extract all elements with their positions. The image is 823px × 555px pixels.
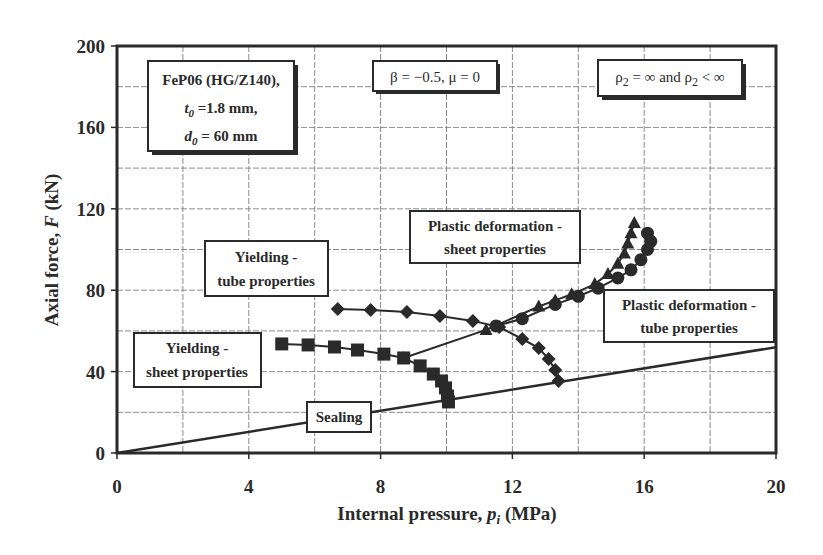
svg-text:Plastic deformation -: Plastic deformation -	[622, 297, 756, 313]
diamond-marker	[364, 303, 378, 317]
x-axis-title: Internal pressure, pi (MPa)	[337, 503, 556, 527]
diamond-marker	[548, 363, 562, 377]
circle-marker	[572, 290, 585, 303]
y-tick-label: 0	[96, 443, 106, 464]
triangle-marker	[628, 216, 641, 228]
circle-marker	[625, 263, 638, 276]
label-plastic-sheet: Plastic deformation - sheet properties	[410, 211, 580, 263]
circle-marker	[641, 227, 654, 240]
square-marker	[302, 338, 315, 351]
y-tick-label: 40	[86, 362, 105, 383]
material-info-box: FeP06 (HG/Z140), t0 =1.8 mm, d0 = 60 mm	[148, 61, 298, 155]
x-tick-label: 12	[503, 476, 522, 497]
svg-text:Plastic deformation -: Plastic deformation -	[428, 218, 562, 234]
square-marker	[351, 344, 364, 357]
diamond-marker	[400, 305, 414, 319]
svg-text:Yielding -: Yielding -	[235, 249, 297, 265]
square-marker	[442, 395, 455, 408]
x-tick-label: 8	[376, 476, 386, 497]
circle-marker	[549, 298, 562, 311]
svg-text:Yielding -: Yielding -	[166, 340, 228, 356]
diamond-marker	[331, 302, 345, 316]
y-tick-label: 200	[77, 36, 106, 57]
svg-text:tube properties: tube properties	[217, 273, 315, 289]
y-tick-label: 160	[77, 117, 106, 138]
square-marker	[414, 359, 427, 372]
circle-marker	[611, 271, 624, 284]
y-tick-label: 120	[77, 199, 106, 220]
circle-marker	[592, 282, 605, 295]
square-marker	[328, 340, 341, 353]
svg-text:β = −0.5, μ = 0: β = −0.5, μ = 0	[390, 69, 480, 85]
x-tick-label: 20	[767, 476, 786, 497]
x-tick-label: 4	[244, 476, 254, 497]
svg-text:sheet properties: sheet properties	[146, 364, 248, 380]
diamond-marker	[433, 309, 447, 323]
square-marker	[275, 337, 288, 350]
y-tick-label: 80	[86, 280, 105, 301]
label-yield-sheet: Yielding - sheet properties	[134, 333, 261, 387]
series-line-yielding-sheet-properties	[282, 344, 449, 402]
square-marker	[377, 348, 390, 361]
x-tick-label: 0	[112, 476, 122, 497]
label-yield-tube: Yielding - tube properties	[205, 241, 328, 296]
svg-text:tube properties: tube properties	[640, 320, 738, 336]
y-axis-title: Axial force, F (kN)	[41, 174, 63, 327]
svg-text:sheet properties: sheet properties	[444, 241, 546, 257]
x-tick-label: 16	[635, 476, 654, 497]
svg-text:Sealing: Sealing	[316, 409, 363, 425]
circle-marker	[516, 312, 529, 325]
diamond-marker	[515, 332, 529, 346]
rho-condition-box: ρ2 = ∞ and ρ2 < ∞	[598, 60, 746, 100]
label-plastic-tube: Plastic deformation - tube properties	[604, 290, 774, 342]
label-sealing: Sealing	[307, 402, 371, 432]
parameters-box: β = −0.5, μ = 0	[373, 61, 500, 94]
diamond-marker	[552, 374, 566, 388]
circle-marker	[489, 320, 502, 333]
diamond-marker	[466, 314, 480, 328]
svg-text:FeP06 (HG/Z140),: FeP06 (HG/Z140),	[162, 72, 280, 89]
chart: 04812162004080120160200 Internal pressur…	[0, 0, 823, 555]
